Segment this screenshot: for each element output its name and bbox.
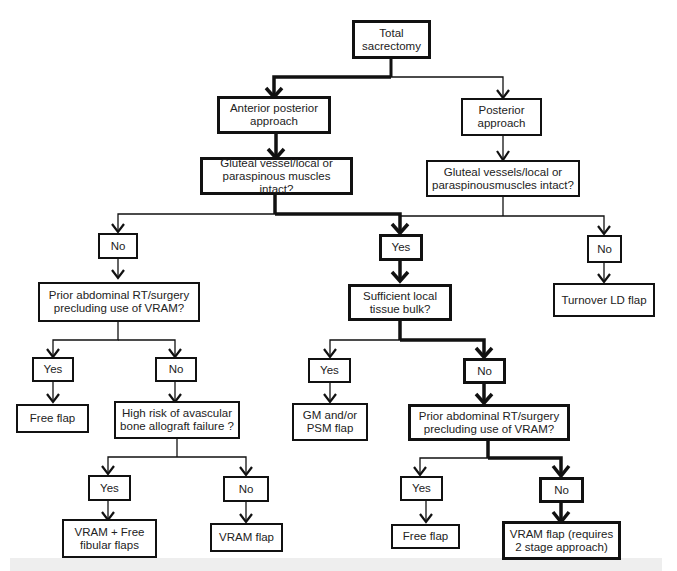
node-no-bc: No bbox=[223, 476, 269, 502]
edge-highrisk-to-no bbox=[177, 457, 246, 474]
node-gluteal-p-question: Gluteal vessels/local or paraspinousmusc… bbox=[426, 160, 580, 197]
node-no-lc: No bbox=[155, 357, 197, 382]
node-no-right: No bbox=[587, 235, 622, 263]
node-free-flap-right: Free flap bbox=[391, 524, 460, 549]
edge-gluteal-p-h bbox=[400, 216, 604, 233]
node-no-left: No bbox=[98, 233, 138, 259]
edge-total-to-post bbox=[391, 77, 503, 97]
flowchart-canvas: Total sacrectomy Anterior posterior appr… bbox=[0, 0, 677, 571]
node-prior-rt-center: Prior abdominal RT/surgery precluding us… bbox=[408, 404, 570, 441]
edge-prior-left-to-no bbox=[118, 340, 175, 355]
node-anterior-posterior-approach: Anterior posterior approach bbox=[217, 96, 331, 134]
edge-prior-center-to-yes bbox=[420, 458, 488, 474]
node-no-cr: No bbox=[463, 358, 506, 384]
node-yes-br: Yes bbox=[400, 476, 443, 501]
edge-prior-center-to-no bbox=[488, 458, 561, 475]
edge-gluteal-ap-to-yes bbox=[275, 214, 400, 232]
edge-highrisk-to-yes bbox=[108, 457, 177, 472]
edge-total-to-ap bbox=[274, 77, 391, 95]
node-vram-flap-left: VRAM flap bbox=[210, 523, 283, 552]
edge-gluteal-ap-to-no bbox=[118, 214, 275, 230]
edge-prior-left-down bbox=[53, 321, 118, 355]
node-sufficient-tissue-bulk: Sufficient local tissue bulk? bbox=[348, 284, 452, 321]
node-yes-center: Yes bbox=[379, 234, 423, 261]
node-no-brr: No bbox=[539, 477, 584, 503]
edge-bulk-to-no bbox=[400, 340, 484, 356]
node-vram-free-fibular: VRAM + Free fibular flaps bbox=[62, 519, 157, 558]
node-gm-psm-flap: GM and/or PSM flap bbox=[292, 403, 368, 441]
node-yes-bl: Yes bbox=[88, 475, 131, 501]
node-yes-cl: Yes bbox=[308, 358, 351, 383]
node-posterior-approach: Posterior approach bbox=[461, 98, 542, 136]
node-gluteal-ap-question: Gluteal vessel/local or paraspinous musc… bbox=[200, 157, 353, 195]
node-vram-two-stage: VRAM flap (requires 2 stage approach) bbox=[502, 521, 621, 560]
node-free-flap-left: Free flap bbox=[16, 404, 89, 433]
node-total-sacrectomy: Total sacrectomy bbox=[352, 20, 431, 59]
node-yes-ll: Yes bbox=[32, 357, 74, 382]
edge-bulk-to-yes bbox=[330, 340, 400, 355]
node-prior-rt-left: Prior abdominal RT/surgery precluding us… bbox=[38, 282, 200, 322]
node-high-risk-allograft: High risk of avascular bone allograft fa… bbox=[114, 401, 240, 439]
node-turnover-ld-flap: Turnover LD flap bbox=[553, 283, 655, 317]
